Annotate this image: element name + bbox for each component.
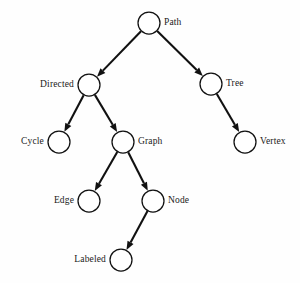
graph-node-vertex[interactable] <box>234 131 256 153</box>
graph-edge <box>128 152 148 191</box>
arrowhead-icon <box>141 182 148 191</box>
arrowhead-icon <box>110 123 117 132</box>
edge-line <box>95 95 113 125</box>
node-label-vertex: Vertex <box>260 137 286 147</box>
arrowhead-icon <box>126 241 133 250</box>
edge-line <box>103 31 141 70</box>
edge-line <box>128 152 144 183</box>
node-label-node: Node <box>168 196 189 206</box>
node-label-cycle: Cycle <box>21 137 44 147</box>
graph-node-node[interactable] <box>142 190 164 212</box>
diagram-canvas: PathDirectedTreeCycleGraphVertexEdgeNode… <box>0 0 300 283</box>
graph-node-tree[interactable] <box>200 73 222 95</box>
graph-edge <box>157 31 203 76</box>
graph-edge <box>217 94 239 132</box>
node-label-edge: Edge <box>54 196 74 206</box>
node-label-graph: Graph <box>138 137 163 147</box>
edge-line <box>157 31 197 70</box>
node-label-labeled: Labeled <box>74 255 106 265</box>
node-label-path: Path <box>164 18 182 28</box>
graph-node-path[interactable] <box>138 12 160 34</box>
graph-edge <box>95 152 118 191</box>
edge-line <box>217 94 235 125</box>
graph-node-graph[interactable] <box>112 131 134 153</box>
node-label-tree: Tree <box>226 79 244 89</box>
edge-line <box>68 95 83 124</box>
graph-edge <box>95 95 117 132</box>
graph-node-directed[interactable] <box>78 74 100 96</box>
graph-edge <box>126 211 147 250</box>
graph-edge <box>97 31 141 76</box>
graph-edge <box>64 95 83 132</box>
arrowhead-icon <box>232 123 239 132</box>
node-label-directed: Directed <box>40 80 74 90</box>
graph-node-labeled[interactable] <box>110 249 132 271</box>
graph-node-edge[interactable] <box>78 190 100 212</box>
arrowhead-icon <box>95 182 102 191</box>
edge-line <box>131 211 148 242</box>
arrowhead-icon <box>64 123 71 132</box>
graph-node-cycle[interactable] <box>48 131 70 153</box>
edge-line <box>99 152 117 184</box>
